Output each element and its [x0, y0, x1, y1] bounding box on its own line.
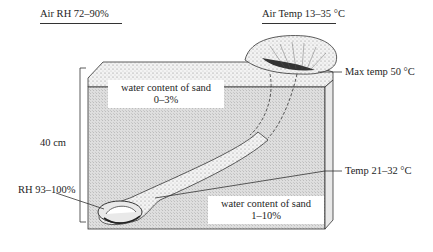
burrow-temp-label: Temp 21–32 °C — [345, 165, 411, 177]
burrow-diagram: Air RH 72–90% Air Temp 13–35 °C Max temp… — [0, 0, 433, 252]
max-temp-label: Max temp 50 °C — [345, 66, 415, 78]
upper-sand-water-title: water content of sand — [112, 82, 220, 94]
lower-sand-water-value: 1–10% — [212, 210, 320, 222]
burrow-rh-label: RH 93–100% — [18, 184, 75, 196]
sand-side-face — [325, 80, 333, 229]
air-temp-label: Air Temp 13–35 °C — [262, 8, 336, 24]
air-rh-label: Air RH 72–90% — [40, 8, 122, 24]
lower-sand-water-box: water content of sand 1–10% — [208, 196, 324, 224]
depth-label: 40 cm — [40, 137, 66, 149]
upper-sand-water-value: 0–3% — [112, 94, 220, 106]
lower-sand-water-title: water content of sand — [212, 198, 320, 210]
depth-bracket — [80, 68, 86, 222]
upper-sand-water-box: water content of sand 0–3% — [108, 80, 224, 108]
